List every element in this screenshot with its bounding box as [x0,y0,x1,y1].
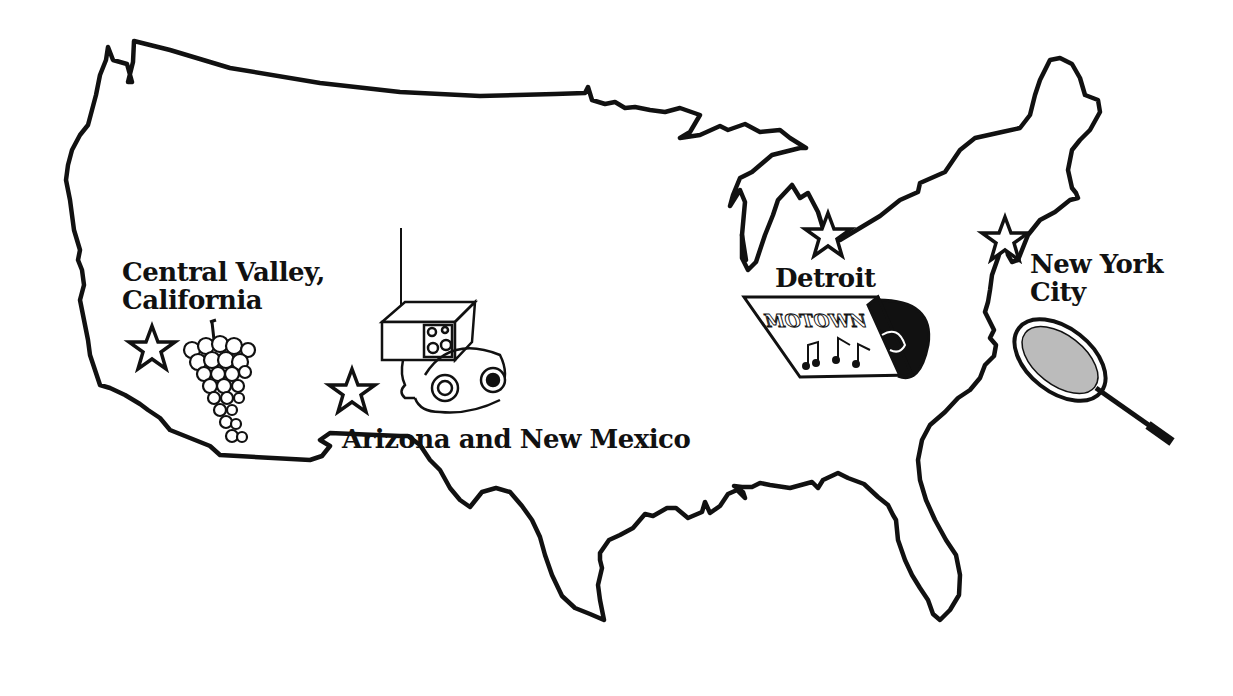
location-name-line1: Arizona and New Mexico [342,425,690,453]
grapes-icon [184,320,255,442]
label-detroit: Detroit [775,264,876,292]
star-icon-central-valley [129,326,175,369]
radio-headphones-icon [382,228,505,413]
location-name-line2: City [1030,278,1163,306]
label-new-york-city: New York City [1030,250,1163,306]
star-icon-detroit [805,213,851,256]
location-name-line1: Detroit [775,264,876,292]
us-map: MOTOWN [0,0,1233,696]
label-central-valley: Central Valley, California [122,258,325,314]
motown-record-icon: MOTOWN [744,297,929,378]
motown-text: MOTOWN [762,310,869,331]
label-arizona-new-mexico: Arizona and New Mexico [342,425,690,453]
location-name-line1: Central Valley, [122,258,325,286]
star-icon-arizona [329,369,375,412]
location-name-line1: New York [1030,250,1163,278]
tennis-racket-icon [999,303,1172,442]
location-name-line2: California [122,286,325,314]
us-outline [66,41,1100,620]
